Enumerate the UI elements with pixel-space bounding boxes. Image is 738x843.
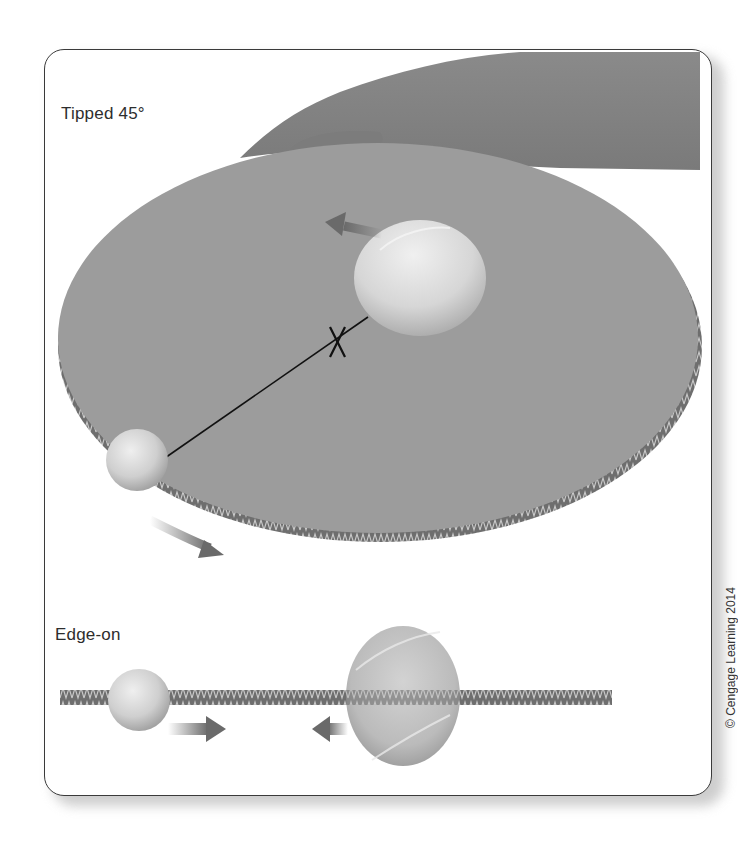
motion-arrow-right [168, 716, 226, 742]
motion-arrow-left [312, 716, 348, 742]
small-ball [106, 429, 168, 491]
tipped-label: Tipped 45° [61, 104, 145, 124]
edge-on-label: Edge-on [55, 625, 121, 645]
motion-arrow-small [150, 520, 224, 558]
illustration [0, 0, 738, 843]
edge-small-ball [108, 669, 170, 731]
copyright-credit: © Cengage Learning 2014 [724, 587, 738, 728]
large-ball [354, 220, 486, 336]
